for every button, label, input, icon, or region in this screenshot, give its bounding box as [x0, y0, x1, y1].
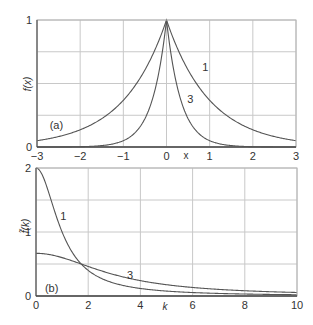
xtick-label: 1	[207, 150, 213, 162]
xtick-label: 4	[137, 299, 143, 311]
xtick-label: 2	[85, 299, 91, 311]
xtick-label: 0	[163, 150, 169, 162]
panel-a-grid	[37, 20, 296, 147]
panel-b-xlabel: k	[163, 301, 169, 312]
panel-b-grid	[36, 168, 297, 296]
curve-series-3	[36, 253, 297, 292]
figure: −3−2−10123 01 13(a) x f(x) 0246810 012 1…	[0, 0, 313, 325]
panel-a-xtick-labels: −3−2−10123	[31, 150, 299, 162]
ytick-label: 0	[25, 290, 31, 302]
panel-a-annotations: 13(a)	[50, 61, 209, 131]
ytick-label: 1	[26, 14, 32, 26]
xtick-label: −3	[31, 150, 44, 162]
xtick-label: −1	[117, 150, 130, 162]
panel-a-xlabel: x	[184, 150, 189, 161]
panel-label: (a)	[50, 119, 63, 131]
xtick-label: 8	[242, 299, 248, 311]
xtick-label: 2	[250, 150, 256, 162]
curve-label: 1	[202, 61, 208, 73]
ytick-label: 2	[25, 162, 31, 174]
panel-a-plot: −3−2−10123 01 13(a) x f(x)	[22, 14, 299, 162]
xtick-label: −2	[74, 150, 87, 162]
panel-b-curves	[36, 168, 297, 295]
panel-b-ylabel: f̃(k)	[19, 219, 31, 233]
panel-b-plot: 0246810 012 13(b) k f̃(k)	[19, 162, 303, 312]
panel-label: (b)	[45, 282, 58, 294]
ytick-label: 0	[26, 141, 32, 153]
curve-series-1	[36, 168, 297, 295]
curve-label: 1	[60, 210, 66, 222]
curve-label: 3	[127, 269, 133, 281]
xtick-label: 3	[293, 150, 299, 162]
xtick-label: 6	[190, 299, 196, 311]
curve-label: 3	[187, 93, 193, 105]
xtick-label: 10	[291, 299, 303, 311]
xtick-label: 0	[33, 299, 39, 311]
panel-b-xtick-labels: 0246810	[33, 299, 303, 311]
panel-a-ylabel: f(x)	[22, 77, 33, 91]
